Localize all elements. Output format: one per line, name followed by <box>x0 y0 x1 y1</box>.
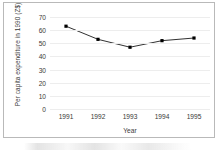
y-axis-tick-labels: 010203040506070 <box>26 17 46 109</box>
data-point-marker <box>128 46 131 49</box>
gridline <box>50 70 210 71</box>
x-axis-tick-labels: 19911992199319941995 <box>50 113 210 125</box>
x-axis-title: Year <box>50 127 210 134</box>
x-tick-label: 1991 <box>59 113 74 120</box>
gridline <box>50 43 210 44</box>
y-tick-label: 0 <box>42 106 46 113</box>
y-tick-label: 50 <box>39 40 46 47</box>
gridline <box>50 56 210 57</box>
x-tick-label: 1995 <box>187 113 202 120</box>
y-tick-label: 70 <box>39 14 46 21</box>
y-tick-label: 60 <box>39 27 46 34</box>
gridline <box>50 17 210 18</box>
x-tick-label: 1994 <box>155 113 170 120</box>
y-tick-label: 10 <box>39 92 46 99</box>
y-tick-label: 40 <box>39 53 46 60</box>
x-tick-label: 1992 <box>91 113 106 120</box>
data-point-marker <box>192 36 195 39</box>
chart-frame: Per capita expenditure in 1990 (Z$) 0102… <box>3 2 215 138</box>
y-axis-title: Per capita expenditure in 1990 (Z$) <box>14 0 21 110</box>
gridline <box>50 109 210 110</box>
plot-area <box>50 17 210 109</box>
data-point-marker <box>64 25 67 28</box>
data-point-marker <box>160 39 163 42</box>
series-markers <box>64 25 195 49</box>
gridline <box>50 83 210 84</box>
data-point-marker <box>96 38 99 41</box>
figure: Per capita expenditure in 1990 (Z$) 0102… <box>0 0 220 156</box>
x-tick-label: 1993 <box>123 113 138 120</box>
y-tick-label: 20 <box>39 79 46 86</box>
y-tick-label: 30 <box>39 66 46 73</box>
caption-artifact <box>24 143 192 150</box>
gridline <box>50 30 210 31</box>
gridline <box>50 96 210 97</box>
